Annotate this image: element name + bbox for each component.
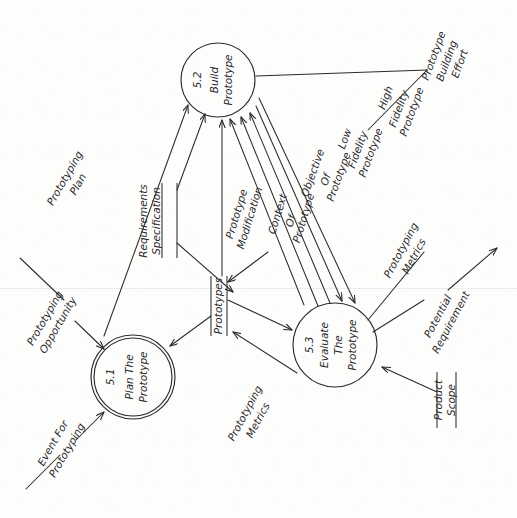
flow-product-scope-to-evaluate[interactable] [382,367,437,392]
flow-prototypes-to-evaluate-line [228,300,292,330]
process-5-3-id: 5.3 [303,337,315,354]
flow-prototype-building-effort[interactable]: Prototype Building Effort [256,30,470,130]
data-store-requirements-specification[interactable]: Requirements Specification [137,183,177,258]
process-5-2-name-line-2: Prototype [222,54,234,105]
process-5-1-id: 5.1 [104,369,116,386]
flow-plan-to-prototypes-store[interactable] [170,316,211,346]
dfd-svg: 5.2 Build Prototype 5.1 Plan The Prototy… [0,0,517,518]
flow-low-fidelity-line [256,106,342,301]
store-scope-label-line-1: Product [432,379,444,420]
flow-plan-to-prototypes-line [170,316,211,346]
process-5-3-name-line-3: Prototype [346,319,358,370]
flow-potential-requirement-arrow [448,248,497,290]
flow-product-scope-line [382,367,437,392]
process-5-3[interactable]: 5.3 Evaluate The Prototype [293,303,377,387]
flow-req-spec-to-build-line [177,114,205,190]
flow-prototyping-metrics-store-line [233,332,297,373]
process-5-3-name-line-1: Evaluate [318,322,330,368]
store-scope-label-line-2: Scope [445,384,457,416]
flow-prototyping-opportunity-arrow [75,321,104,349]
flow-prototyping-opportunity[interactable]: Prototyping Opportunity [20,258,104,355]
store-req-label-line-1: Requirements [137,184,149,258]
store-req-label-line-2: Specification [150,187,162,255]
flow-prototyping-metrics-out[interactable]: Prototyping Metrics [368,220,428,320]
process-5-3-name-line-2: The [332,335,344,355]
flow-event-for-prototyping[interactable]: Event For Prototyping [26,412,104,489]
flow-objective-of-prototype-line [250,113,330,303]
flow-into-prototypes-store[interactable] [228,252,268,282]
flow-into-prototypes-store-line [228,252,268,282]
flow-low-fidelity-label-line-1: Low [335,126,354,150]
process-5-1-name-line-2: Prototype [137,351,149,402]
flow-prototypes-store-to-evaluate[interactable] [228,300,292,330]
diagram-canvas: 5.2 Build Prototype 5.1 Plan The Prototy… [0,0,517,518]
store-proto-label: Prototypes [212,277,224,334]
flow-prototype-building-effort-line [256,70,427,76]
process-5-2-name-line-1: Build [208,66,220,93]
process-5-2-id: 5.2 [191,71,203,88]
flow-prototyping-plan-line [104,105,188,336]
data-store-product-scope[interactable]: Product Scope [432,372,457,428]
process-5-1[interactable]: 5.1 Plan The Prototype [91,335,175,419]
process-5-2[interactable]: 5.2 Build Prototype [181,43,255,117]
flow-requirements-spec-to-build[interactable] [177,114,205,190]
flow-req-spec-to-evaluate-line [177,243,233,292]
flow-requirements-spec-to-evaluate[interactable] [177,243,233,292]
process-5-1-name-line-1: Plan The [123,354,135,399]
flow-prototyping-metrics-store[interactable]: Prototyping Metrics [225,332,297,443]
